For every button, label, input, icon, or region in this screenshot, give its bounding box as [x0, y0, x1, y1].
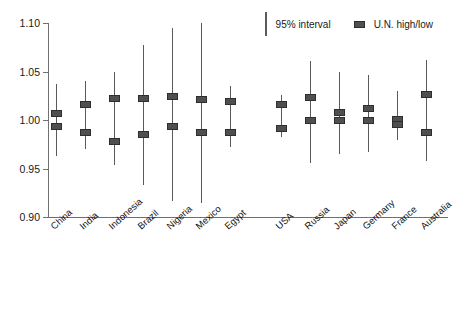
- square-marker-icon: [354, 21, 365, 28]
- un-low-marker: [80, 129, 91, 136]
- data-point-group: [164, 0, 180, 321]
- legend: 95% interval U.N. high/low: [265, 11, 433, 37]
- interval-whisker: [310, 61, 311, 163]
- un-low-marker: [363, 117, 374, 124]
- y-tick-label: 0.95: [4, 164, 40, 175]
- y-tick-label: 1.05: [4, 67, 40, 78]
- un-high-marker: [334, 109, 345, 116]
- data-point-group: [77, 0, 93, 321]
- data-point-group: [360, 0, 376, 321]
- un-high-marker: [363, 105, 374, 112]
- y-tick-label: 1.10: [4, 18, 40, 29]
- data-point-group: [193, 0, 209, 321]
- un-high-marker: [305, 94, 316, 101]
- interval-whisker: [201, 23, 202, 203]
- interval-whisker: [56, 84, 57, 156]
- un-low-marker: [225, 129, 236, 136]
- un-high-marker: [51, 110, 62, 117]
- interval-whisker: [114, 72, 115, 165]
- un-low-marker: [51, 123, 62, 130]
- un-high-marker: [167, 93, 178, 100]
- un-low-marker: [109, 138, 120, 145]
- data-point-group: [331, 0, 347, 321]
- data-point-group: [389, 0, 405, 321]
- un-high-marker: [421, 91, 432, 98]
- un-low-marker: [167, 123, 178, 130]
- data-point-group: [302, 0, 318, 321]
- un-low-marker: [305, 117, 316, 124]
- data-point-group: [135, 0, 151, 321]
- un-low-marker: [138, 131, 149, 138]
- y-tick-label: 0.90: [4, 212, 40, 223]
- y-tick-label: 1.00: [4, 115, 40, 126]
- un-high-marker: [276, 101, 287, 108]
- data-point-group: [106, 0, 122, 321]
- legend-item-interval-label: 95% interval: [276, 19, 331, 30]
- data-point-group: [48, 0, 64, 321]
- un-low-marker: [392, 121, 403, 128]
- un-high-marker: [225, 98, 236, 105]
- un-low-marker: [196, 129, 207, 136]
- un-low-marker: [421, 129, 432, 136]
- interval-whisker: [368, 75, 369, 152]
- un-high-marker: [109, 95, 120, 102]
- interval-whisker: [172, 28, 173, 202]
- interval-whisker: [230, 86, 231, 147]
- un-low-marker: [334, 117, 345, 124]
- un-high-marker: [138, 95, 149, 102]
- data-point-group: [222, 0, 238, 321]
- interval-line-icon: [265, 12, 267, 36]
- interval-whisker: [85, 81, 86, 149]
- interval-whisker: [143, 45, 144, 185]
- un-high-marker: [196, 96, 207, 103]
- legend-item-un-high-low-label: U.N. high/low: [374, 19, 433, 30]
- data-point-group: [273, 0, 289, 321]
- data-point-group: [418, 0, 434, 321]
- un-high-marker: [80, 101, 91, 108]
- interval-whisker: [426, 60, 427, 161]
- un-low-marker: [276, 125, 287, 132]
- chart-container: 0.900.951.001.051.10 ChinaIndiaIndonesia…: [0, 0, 458, 321]
